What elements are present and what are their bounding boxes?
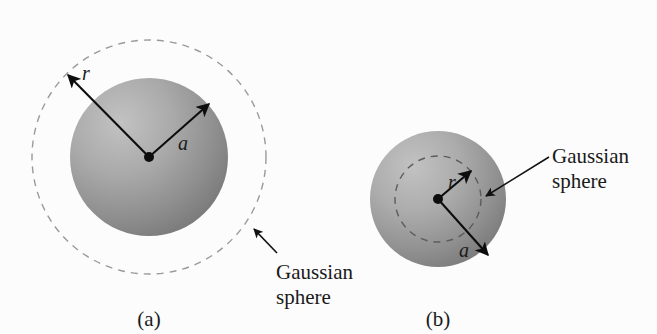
- panel-caption-b: (b): [426, 307, 451, 331]
- sphere-center-point-b: [433, 194, 443, 204]
- radius-label-r-a: r: [82, 62, 90, 84]
- radius-label-r-b: r: [448, 171, 456, 193]
- physics-diagram-gaussian-spheres: r a Gaussian sphere (a) r a Gaussian sph…: [0, 0, 657, 334]
- sphere-center-point-a: [144, 152, 154, 162]
- panel-caption-a: (a): [137, 307, 160, 331]
- figure-container: r a Gaussian sphere (a) r a Gaussian sph…: [0, 0, 657, 334]
- gaussian-sphere-label-line1-a: Gaussian: [276, 260, 353, 284]
- radius-label-a-a: a: [178, 132, 188, 154]
- gaussian-sphere-label-line2-b: sphere: [552, 169, 607, 193]
- gaussian-sphere-label-line2-a: sphere: [276, 285, 331, 309]
- gaussian-sphere-label-line1-b: Gaussian: [552, 144, 629, 168]
- radius-label-a-b: a: [459, 239, 469, 261]
